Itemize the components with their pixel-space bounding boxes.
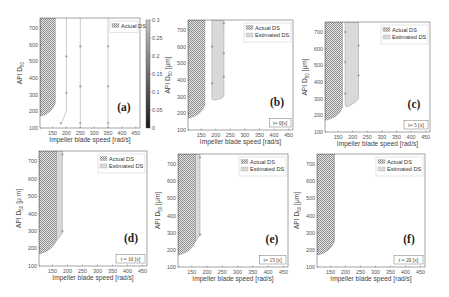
y-axis-label: API D50 [μm] xyxy=(154,192,163,229)
x-tick-label: 300 xyxy=(233,269,242,275)
plot-area xyxy=(317,154,334,255)
y-axis-label: API D50 [μm] xyxy=(301,58,310,95)
x-tick-label: 350 xyxy=(108,268,117,274)
legend-estimated-ds-swatch xyxy=(100,164,107,168)
legend-entry-label: Actual DS xyxy=(109,156,134,162)
x-tick-label: 150 xyxy=(334,134,343,140)
subplot-e: 1502002503003504004501002003004005006007… xyxy=(154,154,288,283)
x-tick-label: 450 xyxy=(421,134,430,140)
legend: Actual DSEstimated DS xyxy=(376,157,423,176)
y-tick-label: 600 xyxy=(167,178,176,184)
y-tick-label: 500 xyxy=(29,58,38,64)
legend-estimated-ds-swatch xyxy=(246,33,253,37)
panel-label: (d) xyxy=(124,232,138,245)
y-tick-label: 300 xyxy=(177,94,186,100)
y-tick-label: 500 xyxy=(306,195,315,201)
x-tick-label: 250 xyxy=(226,132,235,138)
x-tick-label: 450 xyxy=(279,269,288,275)
x-tick-label: 250 xyxy=(76,130,85,136)
legend-entry-label: Estimated DS xyxy=(109,163,143,169)
x-tick-label: 400 xyxy=(270,132,279,138)
time-annotation: t = 20 [s] xyxy=(399,257,419,263)
figure: 1502002503003504004501002003004005006007… xyxy=(0,0,449,297)
time-annotation: t= 5 [s] xyxy=(408,122,424,128)
y-axis-label: API D50 xyxy=(16,61,25,84)
y-label-unit: [μm] xyxy=(164,56,172,71)
y-label-main: API D xyxy=(164,76,171,93)
estimated-ds-region xyxy=(345,22,358,107)
y-tick-label: 200 xyxy=(28,245,37,251)
time-annotation: t= 15 [s] xyxy=(264,257,283,263)
y-tick-label: 400 xyxy=(314,79,323,85)
legend-entry-label: Estimated DS xyxy=(387,166,421,172)
y-label-subscript: 50 xyxy=(20,61,25,67)
y-label-unit: [μm] xyxy=(293,192,301,207)
x-tick-label: 300 xyxy=(93,268,102,274)
y-label-main: API D xyxy=(16,67,23,84)
y-tick-label: 700 xyxy=(314,29,323,35)
y-tick-label: 700 xyxy=(306,161,315,167)
y-tick-label: 500 xyxy=(167,195,176,201)
x-tick-label: 150 xyxy=(326,269,335,275)
panel-label: (a) xyxy=(117,101,131,114)
x-tick-label: 300 xyxy=(90,130,99,136)
x-tick-label: 400 xyxy=(407,134,416,140)
x-tick-label: 200 xyxy=(62,130,71,136)
x-tick-label: 150 xyxy=(48,268,57,274)
y-axis-label: API D50 [μm] xyxy=(164,56,173,93)
x-tick-label: 200 xyxy=(203,269,212,275)
subplot-c: 1502002503003504004501002003004005006007… xyxy=(301,22,430,148)
y-label-main: API D xyxy=(15,211,22,228)
y-label-unit: [μm] xyxy=(154,192,162,207)
y-tick-label: 100 xyxy=(29,125,38,131)
x-tick-label: 350 xyxy=(255,132,264,138)
legend: Actual DSEstimated DS xyxy=(98,154,145,173)
y-axis-label: API D50 [μm] xyxy=(293,192,302,229)
x-tick-label: 150 xyxy=(48,130,57,136)
colorbar-tick-label: 0.25 xyxy=(152,35,163,41)
y-axis-label: API D50 [μ m] xyxy=(15,189,24,228)
legend-actual-ds-swatch xyxy=(112,24,119,28)
panel-label: (f) xyxy=(403,233,415,246)
y-tick-label: 100 xyxy=(177,127,186,133)
x-tick-label: 450 xyxy=(284,132,293,138)
y-tick-label: 200 xyxy=(29,108,38,114)
y-label-main: API D xyxy=(293,212,300,229)
actual-ds-region xyxy=(178,154,195,255)
actual-ds-region xyxy=(40,18,55,116)
y-tick-label: 500 xyxy=(28,193,37,199)
colorbar: 00.050.10.150.20.250.3 xyxy=(146,17,163,131)
x-tick-label: 350 xyxy=(392,134,401,140)
colorbar-tick-label: 0.2 xyxy=(152,53,160,59)
legend-actual-ds-swatch xyxy=(383,28,390,32)
actual-ds-region xyxy=(325,22,343,120)
y-tick-label: 300 xyxy=(167,230,176,236)
legend-entry-label: Actual DS xyxy=(392,27,417,33)
subplot-b: 1502002503003504004501002003004005006007… xyxy=(164,20,293,146)
legend-estimated-ds-swatch xyxy=(383,35,390,39)
legend-entry-label: Actual DS xyxy=(121,23,146,29)
y-tick-label: 300 xyxy=(314,96,323,102)
estimated-ds-region xyxy=(212,20,224,100)
legend-entry-label: Estimated DS xyxy=(392,34,426,40)
panel-label: (b) xyxy=(270,96,284,109)
actual-ds-region xyxy=(317,154,334,255)
x-tick-label: 200 xyxy=(348,134,357,140)
legend-estimated-ds-swatch xyxy=(241,167,248,171)
y-tick-label: 200 xyxy=(177,110,186,116)
time-annotation: t= 0[s] xyxy=(273,120,287,126)
x-tick-label: 350 xyxy=(104,130,113,136)
subplot-f: 1502002503003504004501002003004005006007… xyxy=(293,154,425,283)
legend-entry-label: Actual DS xyxy=(255,25,280,31)
subplot-a: 1502002503003504004501002003004005006007… xyxy=(16,17,163,144)
colorbar-tick-label: 0.15 xyxy=(152,71,163,77)
x-tick-label: 400 xyxy=(401,269,410,275)
y-tick-label: 300 xyxy=(29,92,38,98)
legend-entry-label: Estimated DS xyxy=(250,166,284,172)
x-axis-label: Impeller blade speed [rad/s] xyxy=(52,274,134,282)
time-annotation: t = 10 [s] xyxy=(121,256,141,262)
y-tick-label: 200 xyxy=(314,112,323,118)
x-tick-label: 250 xyxy=(78,268,87,274)
y-tick-label: 400 xyxy=(28,211,37,217)
y-tick-label: 700 xyxy=(28,158,37,164)
